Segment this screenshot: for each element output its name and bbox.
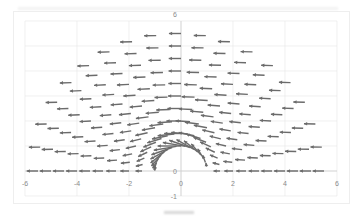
x-tick-label: 0 (179, 180, 183, 187)
arrowhead-icon (68, 152, 71, 156)
arrowhead-icon (111, 72, 114, 76)
arrowhead-icon (168, 94, 171, 98)
arrowhead-icon (189, 58, 192, 62)
arrowhead-icon (271, 113, 274, 117)
arrowhead-icon (244, 83, 247, 87)
arrowhead-icon (191, 46, 194, 50)
arrowhead-icon (261, 64, 264, 68)
arrowhead-icon (81, 154, 84, 158)
arrowhead-icon (102, 132, 105, 136)
arrowhead-icon (268, 135, 271, 139)
arrowhead-icon (213, 52, 216, 56)
arrowhead-icon (256, 139, 259, 143)
arrowhead-icon (228, 71, 231, 75)
arrowhead-icon (190, 110, 193, 114)
x-tick-label: 4 (283, 180, 287, 187)
arrowhead-icon (204, 75, 207, 79)
arrowhead-icon (136, 169, 139, 173)
arrowhead-icon (72, 135, 75, 139)
arrowhead-icon (86, 74, 89, 78)
arrowhead-icon (247, 156, 250, 160)
arrowhead-icon (282, 106, 285, 110)
arrowhead-icon (169, 57, 172, 61)
arrowhead-icon (279, 81, 282, 85)
x-tick-label: 2 (231, 180, 235, 187)
arrowhead-icon (104, 61, 107, 65)
arrowhead-icon (209, 63, 212, 67)
x-tick-label: -6 (22, 180, 28, 187)
arrowhead-icon (184, 83, 187, 87)
arrowhead-icon (169, 32, 172, 36)
arrowhead-icon (214, 169, 217, 173)
arrowhead-icon (259, 96, 262, 100)
arrowhead-icon (156, 108, 159, 112)
arrowhead-icon (195, 98, 198, 102)
arrowhead-icon (46, 101, 49, 105)
arrowhead-icon (236, 169, 239, 173)
arrowhead-icon (232, 147, 235, 151)
arrowhead-icon (234, 61, 237, 65)
x-tick-label: -4 (74, 180, 80, 187)
arrowhead-icon (300, 169, 303, 173)
arrowhead-icon (241, 50, 244, 54)
arrowhead-icon (169, 44, 172, 48)
y-tick-label: 0 (173, 168, 177, 175)
arrowhead-icon (68, 113, 71, 117)
arrowhead-icon (208, 103, 211, 107)
arrowhead-icon (97, 144, 100, 148)
arrowhead-icon (120, 169, 123, 173)
arrowhead-icon (142, 99, 145, 103)
x-tick-label: 6 (335, 180, 339, 187)
vector-field-plot: -6-4-2024660-1 (0, 0, 359, 220)
arrowhead-icon (228, 102, 231, 106)
arrowhead-icon (200, 87, 203, 91)
arrowhead-icon (121, 161, 124, 165)
arrowhead-icon (129, 64, 132, 68)
y-tick-label: 6 (173, 11, 177, 18)
arrowhead-icon (93, 169, 96, 173)
arrowhead-icon (123, 94, 126, 98)
arrowhead-icon (169, 69, 172, 73)
arrowhead-icon (148, 59, 151, 63)
arrowhead-icon (137, 87, 140, 91)
arrowhead-icon (107, 159, 110, 163)
arrowhead-icon (42, 148, 45, 152)
arrowhead-icon (298, 147, 301, 151)
arrowhead-icon (237, 131, 240, 135)
arrowhead-icon (261, 169, 264, 173)
arrowhead-icon (80, 120, 83, 124)
arrowhead-icon (130, 105, 133, 109)
arrowhead-icon (260, 119, 263, 123)
arrowhead-icon (35, 122, 38, 126)
arrowhead-icon (223, 160, 226, 164)
arrowhead-icon (98, 50, 101, 54)
arrow-field (27, 32, 324, 173)
arrowhead-icon (293, 100, 296, 104)
arrowhead-icon (53, 169, 56, 173)
arrowhead-icon (182, 95, 185, 99)
arrowhead-icon (218, 40, 221, 44)
arrowhead-icon (100, 114, 103, 118)
arrowhead-icon (292, 126, 295, 130)
arrowhead-icon (224, 169, 227, 173)
arrowhead-icon (269, 89, 272, 93)
arrowhead-icon (110, 149, 113, 153)
arrowhead-icon (168, 82, 171, 86)
arrowhead-icon (106, 169, 109, 173)
arrowhead-icon (40, 169, 43, 173)
arrowhead-icon (287, 169, 290, 173)
arrowhead-icon (27, 169, 30, 173)
arrowhead-icon (219, 111, 222, 115)
arrowhead-icon (249, 169, 252, 173)
arrowhead-icon (221, 82, 224, 86)
arrowhead-icon (90, 105, 93, 109)
arrowhead-icon (124, 52, 127, 56)
arrowhead-icon (236, 92, 239, 96)
arrowhead-icon (253, 73, 256, 77)
arrowhead-icon (85, 140, 88, 144)
arrowhead-icon (229, 120, 232, 124)
arrowhead-icon (77, 64, 80, 68)
arrowhead-icon (239, 112, 242, 116)
arrowhead-icon (119, 113, 122, 117)
arrowhead-icon (94, 83, 97, 87)
